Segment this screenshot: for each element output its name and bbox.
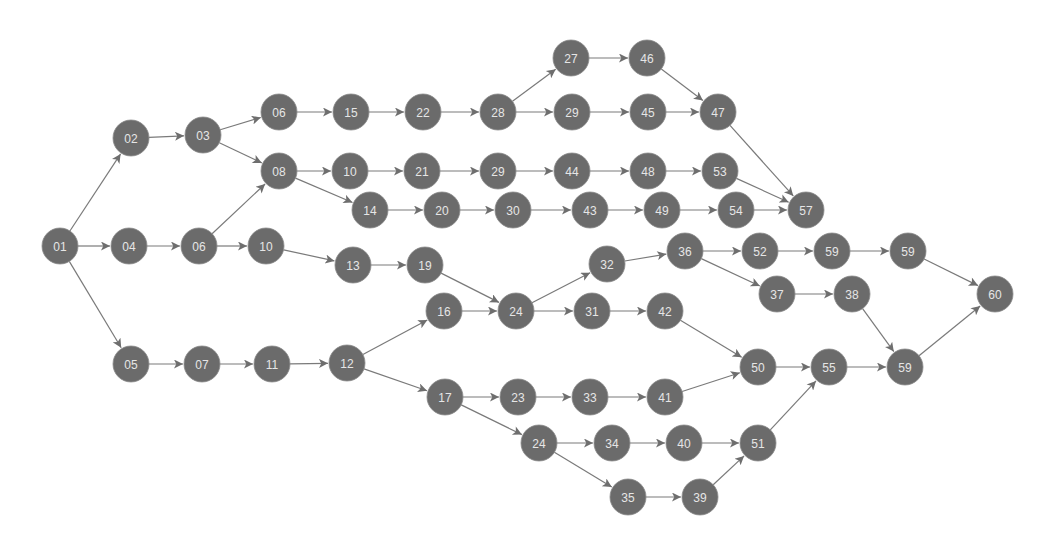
edge-01-to-02 — [70, 154, 121, 231]
node-10: 10 — [248, 228, 284, 264]
node-label: 10 — [259, 240, 273, 254]
node-37: 37 — [759, 276, 795, 312]
node-label: 59 — [898, 361, 912, 375]
node-05: 05 — [113, 346, 149, 382]
node-label: 16 — [437, 305, 451, 319]
node-38: 38 — [834, 276, 870, 312]
node-07: 07 — [184, 346, 220, 382]
network-diagram: 0102030406050711120608101522282746294547… — [0, 0, 1053, 547]
node-40: 40 — [666, 425, 702, 461]
node-label: 33 — [583, 391, 597, 405]
node-label: 15 — [344, 106, 358, 120]
edge-line — [69, 261, 121, 347]
node-59: 59 — [887, 349, 923, 385]
node-label: 24 — [509, 305, 523, 319]
edge-line — [680, 320, 741, 357]
edge-line — [70, 154, 121, 231]
node-57: 57 — [788, 192, 824, 228]
node-label: 04 — [122, 240, 136, 254]
edge-line — [284, 250, 335, 261]
edge-line — [863, 309, 894, 352]
node-10: 10 — [332, 153, 368, 189]
node-54: 54 — [718, 192, 754, 228]
edge-line — [730, 125, 793, 195]
node-55: 55 — [811, 349, 847, 385]
node-14: 14 — [352, 192, 388, 228]
edge-line — [513, 69, 556, 101]
node-42: 42 — [647, 293, 683, 329]
node-label: 36 — [678, 245, 692, 259]
node-label: 23 — [511, 391, 525, 405]
node-label: 27 — [564, 52, 578, 66]
node-32: 32 — [589, 246, 625, 282]
node-label: 07 — [195, 358, 209, 372]
node-48: 48 — [630, 153, 666, 189]
node-label: 35 — [621, 491, 635, 505]
edge-03-to-08 — [219, 143, 261, 163]
node-label: 39 — [693, 491, 707, 505]
node-33: 33 — [572, 379, 608, 415]
edge-01-to-05 — [69, 261, 121, 347]
node-label: 20 — [435, 204, 449, 218]
node-label: 30 — [506, 204, 520, 218]
edge-line — [713, 456, 744, 485]
node-label: 06 — [192, 240, 206, 254]
node-16: 16 — [426, 293, 462, 329]
node-label: 47 — [711, 106, 725, 120]
node-15: 15 — [333, 94, 369, 130]
node-39: 39 — [682, 479, 718, 515]
node-19: 19 — [407, 247, 443, 283]
edge-03-to-06 — [220, 118, 261, 130]
edge-line — [919, 306, 980, 356]
node-label: 59 — [825, 245, 839, 259]
edge-46-to-47 — [661, 69, 703, 101]
edge-11-to-12 — [290, 363, 328, 364]
node-label: 57 — [799, 204, 813, 218]
node-label: 48 — [641, 165, 655, 179]
node-label: 01 — [53, 240, 67, 254]
edge-line — [625, 254, 667, 261]
node-label: 14 — [363, 204, 377, 218]
edge-line — [770, 381, 816, 430]
edge-line — [212, 184, 265, 234]
edge-line — [682, 373, 740, 392]
node-20: 20 — [424, 192, 460, 228]
node-11: 11 — [254, 346, 290, 382]
edge-47-to-57 — [730, 125, 793, 195]
edge-line — [364, 369, 427, 391]
edge-38-to-59 — [863, 309, 894, 352]
edge-line — [661, 69, 703, 101]
edge-02-to-03 — [149, 136, 184, 138]
node-label: 21 — [415, 165, 429, 179]
edge-39-to-51 — [713, 456, 744, 485]
node-label: 42 — [658, 305, 672, 319]
node-label: 60 — [988, 288, 1002, 302]
node-21: 21 — [404, 153, 440, 189]
edge-32-to-36 — [625, 254, 667, 261]
node-label: 49 — [655, 204, 669, 218]
node-label: 34 — [605, 437, 619, 451]
node-24: 24 — [521, 425, 557, 461]
node-label: 38 — [845, 288, 859, 302]
edge-line — [219, 143, 261, 163]
node-label: 59 — [901, 245, 915, 259]
edge-28-to-27 — [513, 69, 556, 101]
node-label: 31 — [585, 305, 599, 319]
node-35: 35 — [610, 479, 646, 515]
node-label: 50 — [751, 361, 765, 375]
node-23: 23 — [500, 379, 536, 415]
node-36: 36 — [667, 233, 703, 269]
node-12: 12 — [329, 345, 365, 381]
node-label: 51 — [751, 437, 765, 451]
node-27: 27 — [553, 40, 589, 76]
node-44: 44 — [554, 153, 590, 189]
node-label: 45 — [641, 106, 655, 120]
node-label: 22 — [416, 106, 430, 120]
node-label: 19 — [418, 259, 432, 273]
node-label: 32 — [600, 258, 614, 272]
edge-line — [924, 259, 978, 286]
node-24: 24 — [498, 293, 534, 329]
edge-line — [363, 320, 427, 355]
edge-line — [220, 118, 261, 130]
node-label: 46 — [640, 52, 654, 66]
